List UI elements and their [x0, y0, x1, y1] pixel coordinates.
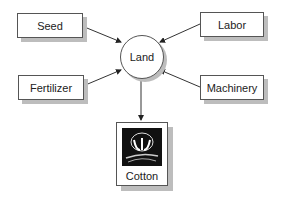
arrow-machinery-to-land — [160, 70, 200, 87]
input-label: Fertilizer — [30, 82, 72, 94]
diagram: Seed Labor Fertilizer Machinery Land Cot… — [0, 0, 284, 198]
input-box-machinery: Machinery — [200, 75, 264, 100]
arrow-fertilizer-to-land — [83, 70, 121, 86]
input-label: Seed — [37, 20, 63, 32]
input-box-fertilizer: Fertilizer — [18, 75, 84, 100]
input-label: Machinery — [207, 82, 258, 94]
input-box-labor: Labor — [200, 12, 264, 37]
arrow-labor-to-land — [160, 24, 200, 42]
land-label: Land — [130, 51, 154, 63]
land-node: Land — [120, 35, 164, 79]
output-box-cotton: Cotton — [116, 122, 168, 186]
input-box-seed: Seed — [17, 13, 83, 38]
cotton-boll-icon — [122, 128, 162, 166]
cotton-label: Cotton — [117, 170, 167, 182]
input-label: Labor — [218, 19, 246, 31]
arrow-seed-to-land — [82, 26, 121, 42]
